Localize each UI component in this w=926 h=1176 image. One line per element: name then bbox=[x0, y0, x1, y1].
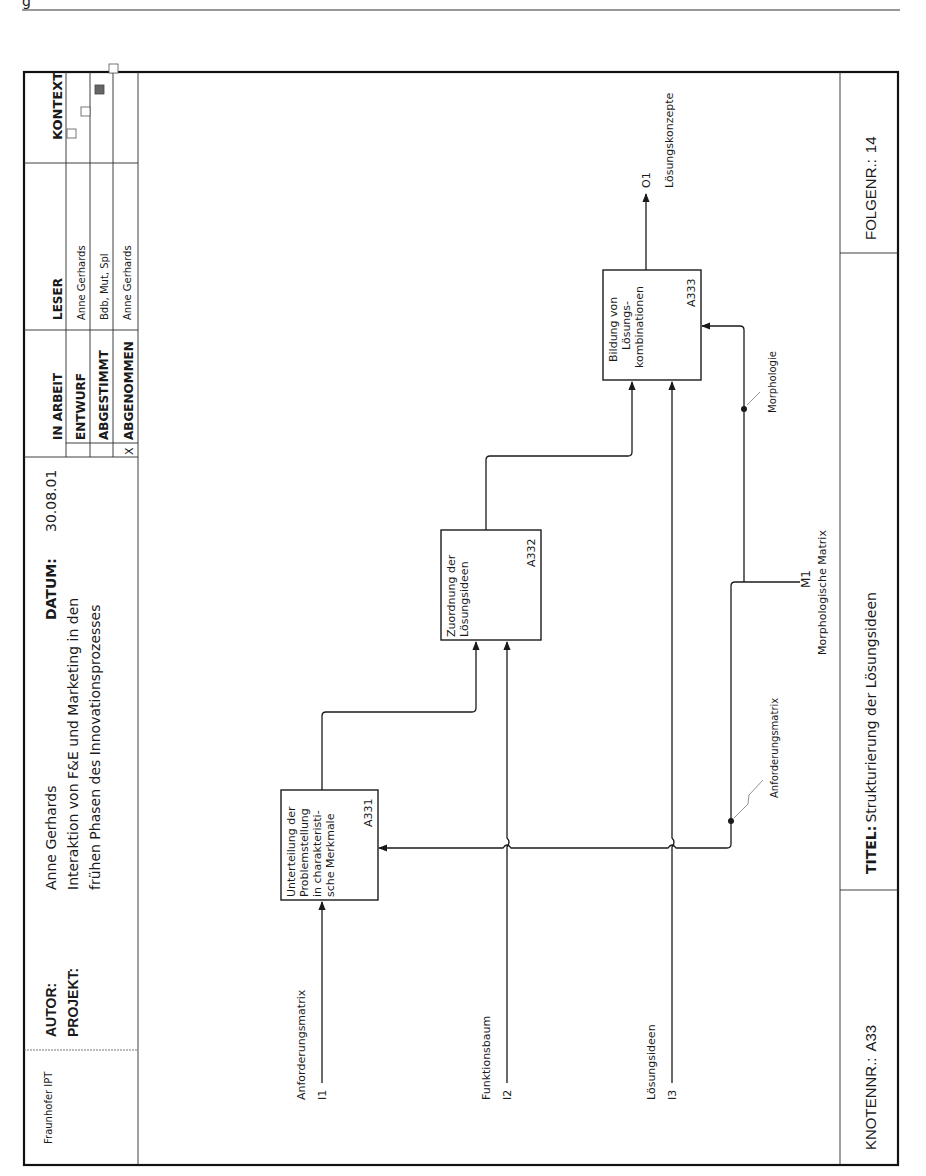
junction-dot-morphologie bbox=[741, 406, 747, 412]
context-box-4 bbox=[109, 64, 118, 73]
input-i3-label: Lösungsideen bbox=[645, 1024, 658, 1100]
svg-text:ABGENOMMEN: ABGENOMMEN bbox=[122, 341, 136, 440]
status-mark: X bbox=[123, 447, 136, 455]
svg-text:Bildung von: Bildung von bbox=[607, 297, 620, 362]
svg-text:kombinationen: kombinationen bbox=[633, 286, 646, 368]
input-i1-label: Anforderungsmatrix bbox=[295, 989, 308, 1100]
context-label: KONTEXT bbox=[50, 72, 65, 140]
svg-text:TITEL:Strukturierung der Lösun: TITEL:Strukturierung der Lösungsideen bbox=[863, 592, 879, 874]
svg-text:ABGESTIMMT: ABGESTIMMT bbox=[97, 349, 111, 440]
status-cell-in-arbeit: IN ARBEIT bbox=[51, 372, 65, 440]
status-cell-entwurf: ENTWURF bbox=[74, 373, 88, 440]
branch-label-morphologie: Morphologie bbox=[767, 351, 778, 413]
activity-box-a333[interactable]: Bildung von Lösungs- kombinationen A333 bbox=[603, 270, 701, 380]
date-value: 30.08.01 bbox=[43, 470, 59, 532]
footer-title: TITEL:Strukturierung der Lösungsideen bbox=[863, 592, 879, 874]
footer-node-number: KNOTENNR.:A33 bbox=[862, 1025, 879, 1150]
output-o1-code: O1 bbox=[640, 172, 653, 188]
running-head: g bbox=[22, 0, 31, 9]
svg-text:Problemstellung: Problemstellung bbox=[298, 808, 311, 897]
status-cell-abgenommen: X ABGENOMMEN bbox=[122, 341, 136, 455]
svg-text:FOLGENR.:14: FOLGENR.:14 bbox=[862, 136, 879, 240]
project-label: PROJEKT: bbox=[65, 968, 81, 1037]
svg-text:in charakteristi-: in charakteristi- bbox=[311, 810, 324, 897]
context-box-2 bbox=[81, 107, 90, 116]
input-i3-code: I3 bbox=[666, 1090, 679, 1100]
activity-id-a332: A332 bbox=[525, 538, 538, 567]
label-leader-morphologie bbox=[747, 392, 760, 405]
context-box-1 bbox=[67, 129, 76, 138]
input-i1-code: I1 bbox=[316, 1090, 329, 1100]
reader-3: Anne Gerhards bbox=[122, 245, 133, 320]
date-label: DATUM: bbox=[43, 558, 59, 620]
svg-text:Lösungsideen: Lösungsideen bbox=[458, 561, 471, 637]
arrow-a331-to-a332 bbox=[322, 642, 476, 790]
activity-box-a331[interactable]: Unterteilung der Problemstellung in char… bbox=[281, 790, 378, 900]
activity-id-a333: A333 bbox=[685, 278, 698, 307]
svg-text:Unterteilung der: Unterteilung der bbox=[285, 806, 298, 897]
arrow-input-i3 bbox=[672, 382, 674, 1083]
project-line-1: Interaktion von F&E und Marketing in den bbox=[65, 598, 81, 890]
svg-text:sche Merkmale: sche Merkmale bbox=[324, 813, 337, 897]
reader-label: LESER bbox=[51, 278, 65, 320]
status-cell-abgestimmt: ABGESTIMMT bbox=[97, 349, 111, 440]
idef0-diagram: g Fraunhofer IPT AUTOR: PROJEKT: Anne Ge… bbox=[0, 0, 926, 1176]
project-line-2: frühen Phasen des Innovationsprozesses bbox=[87, 604, 103, 890]
svg-text:KNOTENNR.:A33: KNOTENNR.:A33 bbox=[862, 1025, 879, 1150]
junction-dot-anforderungsmatrix bbox=[728, 818, 734, 824]
svg-text:Lösungs-: Lösungs- bbox=[620, 301, 633, 350]
branch-label-anforderungsmatrix: Anforderungsmatrix bbox=[769, 698, 780, 798]
footer-sequence-number: FOLGENR.:14 bbox=[862, 136, 879, 240]
input-i2-code: I2 bbox=[501, 1090, 514, 1100]
svg-text:ENTWURF: ENTWURF bbox=[74, 373, 88, 440]
reader-2: Bdb, Mut, Spl bbox=[99, 253, 110, 320]
svg-text:IN ARBEIT: IN ARBEIT bbox=[51, 372, 65, 440]
svg-text:Zuordnung der: Zuordnung der bbox=[445, 554, 458, 637]
mechanism-m1-label: Morphologische Matrix bbox=[816, 530, 829, 655]
output-o1-label: Lösungskonzepte bbox=[663, 92, 676, 188]
arrow-a332-to-a333 bbox=[486, 382, 632, 530]
author-label: AUTOR: bbox=[43, 983, 59, 1037]
activity-id-a331: A331 bbox=[362, 798, 375, 827]
context-indicator bbox=[67, 64, 118, 138]
arrow-input-i2 bbox=[507, 642, 509, 1083]
reader-1: Anne Gerhards bbox=[76, 245, 87, 320]
author-value: Anne Gerhards bbox=[43, 785, 59, 890]
input-i2-label: Funktionsbaum bbox=[480, 1016, 493, 1100]
organization-label: Fraunhofer IPT bbox=[43, 1071, 54, 1144]
activity-box-a332[interactable]: Zuordnung der Lösungsideen A332 bbox=[441, 530, 541, 640]
label-leader-anforderungsmatrix bbox=[734, 780, 763, 818]
context-box-3 bbox=[95, 85, 104, 94]
mechanism-m1-code: M1 bbox=[799, 570, 813, 588]
